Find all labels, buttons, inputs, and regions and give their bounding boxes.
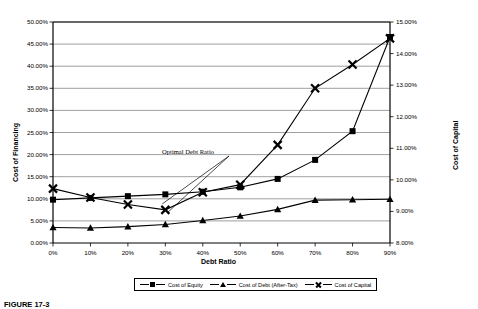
y-axis-tick-left-6: 30.00% (8, 106, 48, 113)
x-marker-icon (315, 281, 322, 288)
chart-container: Cost of Financing Cost of Capital Debt R… (0, 0, 478, 309)
x-axis-tick-1: 10% (74, 249, 106, 256)
legend-label: Cost of Debt (After-Tax) (239, 282, 298, 288)
x-axis-tick-3: 30% (149, 249, 181, 256)
legend-line (323, 284, 332, 285)
y-axis-tick-left-2: 10.00% (8, 195, 48, 202)
x-axis-tick-0: 0% (37, 249, 69, 256)
y-axis-tick-left-0: 0.00% (8, 239, 48, 246)
y-axis-tick-right-5: 13.00% (396, 81, 438, 88)
legend-item-cost-of-capital: Cost of Capital (305, 281, 372, 288)
y-axis-tick-right-1: 9.00% (396, 207, 438, 214)
x-axis-tick-9: 90% (374, 249, 406, 256)
legend-label: Cost of Capital (335, 282, 372, 288)
y-axis-tick-right-4: 12.00% (396, 113, 438, 120)
chart-plot-area (0, 0, 478, 309)
legend-line (227, 284, 236, 285)
x-axis-tick-6: 60% (262, 249, 294, 256)
y-axis-tick-left-8: 40.00% (8, 62, 48, 69)
legend-label: Cost of Equity (168, 282, 203, 288)
y-axis-tick-left-3: 15.00% (8, 173, 48, 180)
y-axis-tick-left-5: 25.00% (8, 129, 48, 136)
square-marker-icon (150, 282, 155, 287)
legend-line (156, 284, 165, 285)
legend-line (305, 284, 314, 285)
y-axis-tick-left-9: 45.00% (8, 40, 48, 47)
y-axis-tick-right-3: 11.00% (396, 144, 438, 151)
x-axis-title: Debt Ratio (201, 258, 236, 265)
y-axis-tick-right-6: 14.00% (396, 50, 438, 57)
annotation-optimal-debt-ratio: Optimal Debt Ratio (162, 148, 214, 155)
x-axis-tick-4: 40% (187, 249, 219, 256)
legend-line (140, 284, 149, 285)
y-axis-title-right: Cost of Capital (452, 121, 459, 170)
y-axis-tick-left-10: 50.00% (8, 18, 48, 25)
legend-item-cost-of-equity: Cost of Equity (140, 282, 203, 288)
figure-caption: FIGURE 17-3 (4, 300, 49, 309)
y-axis-tick-left-1: 5.00% (8, 217, 48, 224)
x-axis-tick-7: 70% (299, 249, 331, 256)
legend-item-cost-of-debt: Cost of Debt (After-Tax) (210, 282, 298, 288)
y-axis-tick-left-7: 35.00% (8, 84, 48, 91)
x-axis-tick-2: 20% (112, 249, 144, 256)
x-axis-tick-8: 80% (337, 249, 369, 256)
x-axis-tick-5: 50% (224, 249, 256, 256)
triangle-marker-icon (220, 282, 226, 287)
legend-line (210, 284, 219, 285)
y-axis-tick-right-0: 8.00% (396, 239, 438, 246)
y-axis-tick-left-4: 20.00% (8, 151, 48, 158)
y-axis-tick-right-7: 15.00% (396, 18, 438, 25)
y-axis-tick-right-2: 10.00% (396, 176, 438, 183)
chart-legend: Cost of Equity Cost of Debt (After-Tax) … (134, 278, 377, 291)
